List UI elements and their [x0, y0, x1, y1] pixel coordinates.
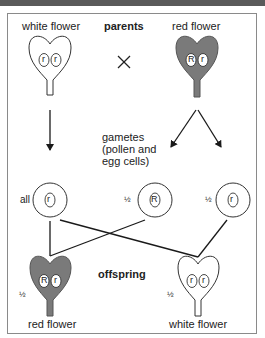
gamete-3-fraction: ½ [205, 195, 212, 204]
offspring-white-flower-icon [178, 256, 219, 316]
gametes-heading-line-1: gametes [102, 131, 156, 143]
offspring-red-allele-1: R [41, 275, 48, 285]
parent-red-allele-1: R [188, 54, 195, 64]
parent-white-label: white flower [22, 20, 80, 32]
offspring-white-allele-2: r [202, 275, 205, 285]
gamete-1-allele: r [47, 194, 50, 204]
gametes-heading-line-2: (pollen and [102, 143, 156, 155]
gamete-2-allele: R [151, 194, 158, 204]
offspring-white-fraction: ½ [167, 290, 174, 299]
gamete-2-fraction: ½ [124, 195, 131, 204]
gamete-half-r-icon [216, 183, 250, 217]
arrow-red-to-gamete-R [171, 110, 196, 147]
cross-icon [118, 56, 130, 68]
parent-red-label: red flower [172, 20, 220, 32]
offspring-red-flower-icon [30, 256, 71, 316]
gamete-3-allele: r [230, 194, 233, 204]
gamete-all-r-icon [33, 183, 67, 217]
arrow-red-to-gamete-r [198, 110, 221, 147]
offspring-red-label: red flower [28, 318, 76, 330]
offspring-red-allele-2: r [54, 275, 57, 285]
parent-red-allele-2: r [201, 54, 204, 64]
parent-white-allele-2: r [54, 54, 57, 64]
offspring-red-fraction: ½ [19, 290, 26, 299]
parent-red-flower-icon [176, 36, 218, 97]
gametes-heading: gametes (pollen and egg cells) [102, 131, 156, 167]
offspring-white-label: white flower [169, 318, 227, 330]
offspring-white-allele-1: r [190, 275, 193, 285]
gamete-1-fraction: all [20, 194, 30, 205]
parent-white-allele-1: r [42, 54, 45, 64]
fertilization-lines [50, 220, 227, 257]
gametes-heading-line-3: egg cells) [102, 155, 156, 167]
parents-heading: parents [104, 20, 144, 32]
offspring-heading: offspring [98, 268, 146, 280]
diagram-graphics [0, 0, 265, 338]
parent-white-flower-icon [29, 36, 71, 95]
